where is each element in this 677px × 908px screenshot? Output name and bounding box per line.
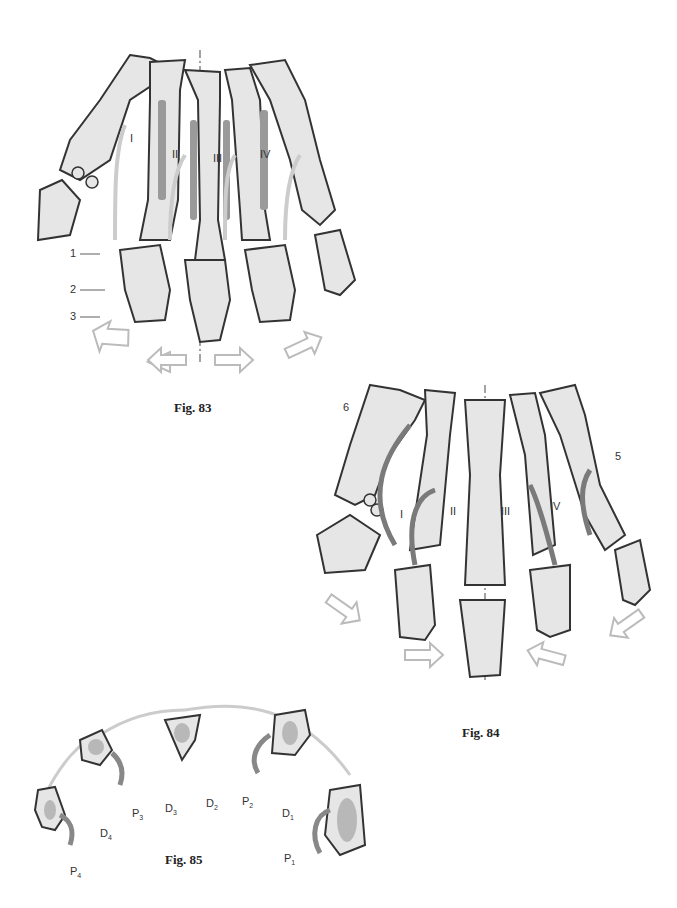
label-text: D xyxy=(282,807,290,819)
label-P1: P1 xyxy=(284,852,295,866)
label-P3: P3 xyxy=(132,807,143,821)
digit-label-I: I xyxy=(400,508,403,520)
figure-83-caption: Fig. 83 xyxy=(174,400,212,416)
label-sub: 2 xyxy=(249,802,253,809)
label-sub: 3 xyxy=(139,814,143,821)
label-sub: 3 xyxy=(173,809,177,816)
figure-85-caption: Fig. 85 xyxy=(165,852,203,868)
label-text: D xyxy=(206,797,214,809)
label-sub: 1 xyxy=(290,814,294,821)
digit-label-II: II xyxy=(450,505,456,517)
callout-leaders-83 xyxy=(20,40,380,380)
label-D4: D4 xyxy=(100,827,112,841)
digit-label-IV: IV xyxy=(550,500,560,512)
figure-84: 6 5 I II III IV xyxy=(305,375,675,695)
label-D1: D1 xyxy=(282,807,294,821)
label-P4: P4 xyxy=(70,865,81,879)
figure-84-caption: Fig. 84 xyxy=(462,725,500,741)
hand-bones-illustration-84 xyxy=(305,375,675,695)
label-text: D xyxy=(165,802,173,814)
label-text: D xyxy=(100,827,108,839)
digit-label-III: III xyxy=(501,505,510,517)
label-D3: D3 xyxy=(165,802,177,816)
label-D2: D2 xyxy=(206,797,218,811)
label-sub: 4 xyxy=(108,834,112,841)
callout-6: 6 xyxy=(343,401,349,413)
label-sub: 1 xyxy=(291,859,295,866)
callout-5: 5 xyxy=(615,450,621,462)
label-sub: 2 xyxy=(214,804,218,811)
figure-83: I II III IV 1 2 3 xyxy=(20,40,380,380)
label-P2: P2 xyxy=(242,795,253,809)
label-sub: 4 xyxy=(77,872,81,879)
